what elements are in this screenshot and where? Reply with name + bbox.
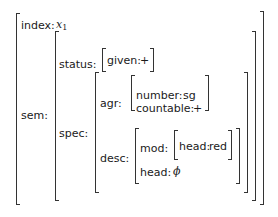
spec-label: spec: [59,127,88,140]
status-left-bracket [102,48,106,72]
countable-label: countable: [136,102,194,115]
spec-left-bracket [95,72,99,193]
index-label: index: [21,19,55,32]
agr-label: agr: [100,97,122,110]
sem-left-bracket [55,31,59,201]
outer-left-bracket [16,13,20,205]
mod-head-label: head: [179,140,210,153]
given-label: given: [107,54,141,67]
outer-right-bracket [260,11,264,205]
status-label: status: [59,58,97,71]
sem-right-bracket [252,31,256,201]
agr-right-bracket [205,75,209,111]
desc-right-bracket [236,128,240,184]
given-value: + [140,54,149,67]
agr-left-bracket [131,75,135,111]
countable-value: + [193,102,202,115]
status-right-bracket [150,48,154,72]
desc-left-bracket [135,128,139,184]
number-value: sg [183,89,196,102]
desc-label: desc: [100,152,129,165]
desc-head-label: head: [140,166,171,179]
number-label: number: [136,89,182,102]
mod-right-bracket [228,130,232,160]
mod-head-value: red [209,140,227,153]
spec-right-bracket [244,72,248,193]
mod-left-bracket [174,130,178,160]
desc-head-value: ϕ [173,165,181,178]
mod-label: mod: [140,142,168,155]
sem-label: sem: [21,109,48,122]
